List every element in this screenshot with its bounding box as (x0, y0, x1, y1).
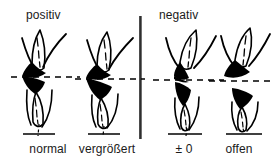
upper-segment-vergroessert (86, 32, 133, 80)
panel-label-vergroessert: vergrößert (74, 142, 140, 156)
diagram-offen (208, 24, 271, 138)
diagram-vergroessert (71, 24, 149, 138)
upper-segment-offen (221, 28, 270, 78)
figure-plate: positiv negativ (0, 0, 271, 164)
panel-label-pm-zero: ± 0 (156, 142, 212, 156)
lower-segment-pm-zero (175, 82, 199, 136)
panel-label-offen: offen (210, 142, 268, 156)
lower-segment-normal (22, 76, 52, 136)
lower-segment-vergroessert (86, 78, 118, 136)
panel-label-normal: normal (16, 142, 80, 156)
lower-segment-offen (232, 88, 258, 132)
group-label-negativ: negativ (159, 8, 198, 22)
upper-segment-normal (22, 30, 66, 78)
group-label-positiv: positiv (26, 8, 61, 22)
